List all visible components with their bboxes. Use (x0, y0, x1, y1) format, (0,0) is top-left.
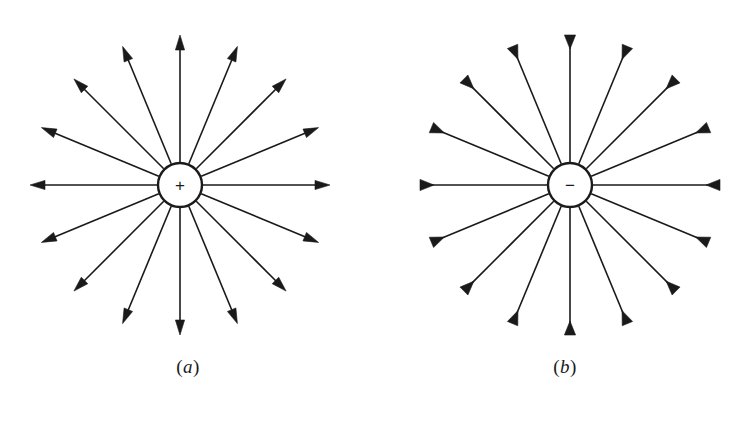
field-line (579, 52, 625, 164)
field-line-arrowhead (696, 122, 711, 133)
field-line-arrowhead (507, 311, 518, 326)
panel-b-caption-letter: b (560, 356, 570, 377)
field-line-arrowhead (123, 46, 133, 62)
panel-b-caption-close-paren: ) (570, 356, 577, 377)
field-line (126, 206, 171, 316)
field-line (49, 131, 159, 176)
field-line (468, 83, 553, 168)
field-line (49, 194, 159, 239)
field-line-arrowhead (175, 35, 184, 50)
field-line (189, 54, 234, 164)
field-line (515, 52, 561, 164)
field-line-arrowhead (315, 180, 330, 189)
field-line-arrowhead (622, 44, 633, 59)
field-line (80, 85, 164, 169)
field-line-arrowhead (429, 122, 444, 133)
field-line (586, 201, 671, 286)
panel-positive-charge: + (a) (0, 0, 376, 439)
field-line-arrowhead (30, 180, 45, 189)
field-line-arrowhead (706, 179, 720, 190)
panel-b-diagram: − (377, 0, 753, 360)
charge-sign-minus: − (565, 176, 575, 195)
field-line-arrowhead (227, 46, 237, 62)
field-line (579, 206, 625, 318)
field-line-arrowhead (303, 128, 319, 138)
panel-a-diagram: + (0, 0, 376, 360)
field-line (201, 194, 311, 239)
field-line-arrowhead (507, 44, 518, 59)
field-line (196, 201, 280, 285)
charge-sign-plus: + (175, 176, 185, 195)
panel-b-caption: (b) (377, 356, 753, 378)
field-line (201, 131, 311, 176)
field-line (515, 206, 561, 318)
field-line (126, 54, 171, 164)
field-line (437, 194, 549, 240)
field-line-arrowhead (460, 281, 474, 295)
field-line-arrowhead (460, 75, 474, 89)
field-line-arrowhead (622, 311, 633, 326)
field-line-arrowhead (666, 281, 680, 295)
field-line (80, 201, 164, 285)
field-line-arrowhead (303, 232, 319, 242)
field-line-arrowhead (420, 179, 434, 190)
field-line-arrowhead (41, 128, 57, 138)
panel-a-caption-close-paren: ) (193, 356, 200, 377)
field-line-arrowhead (41, 232, 57, 242)
field-line-arrowhead (564, 321, 575, 335)
field-line-arrowhead (123, 308, 133, 324)
panel-a-caption-letter: a (183, 356, 193, 377)
field-line (591, 130, 703, 176)
panel-b-caption-open-paren: ( (553, 356, 560, 377)
electric-field-lines-figure: + (a) − (b) (0, 0, 753, 439)
field-line-arrowhead (227, 308, 237, 324)
field-line (196, 85, 280, 169)
field-line (468, 201, 553, 286)
field-line (437, 130, 549, 176)
field-line (591, 194, 703, 240)
field-line-arrowhead (175, 320, 184, 335)
field-line-arrowhead (564, 35, 575, 49)
field-line (586, 83, 671, 168)
panel-a-caption: (a) (0, 356, 376, 378)
field-line-arrowhead (666, 75, 680, 89)
panel-a-caption-open-paren: ( (176, 356, 183, 377)
field-line (189, 206, 234, 316)
panel-negative-charge: − (b) (377, 0, 753, 439)
field-line-arrowhead (696, 237, 711, 248)
field-line-arrowhead (429, 237, 444, 248)
